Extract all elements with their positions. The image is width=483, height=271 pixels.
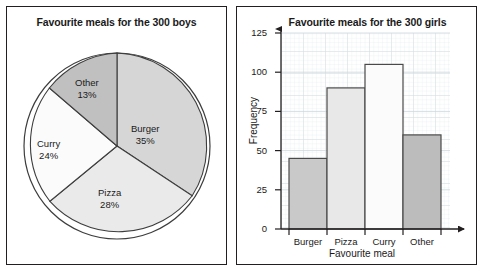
x-axis-label: Favourite meal [267,248,457,259]
bar-chart-panel: Favourite meals for the 300 girls [236,6,477,265]
pie-label-pizza: Pizza 28% [98,187,121,211]
pie-label-curry-name: Curry [37,138,60,150]
pie-label-curry: Curry 24% [37,138,60,162]
figure-container: Favourite meals for the 300 boys Burger … [0,0,483,271]
pie-label-pizza-value: 28% [98,199,121,211]
pie-label-other-value: 13% [75,89,99,101]
bar-burger [289,158,327,229]
y-tick-label-25: 25 [241,184,267,195]
pie-label-curry-value: 24% [37,150,60,162]
pie-label-other-name: Other [75,77,99,89]
pie-chart-plot: Burger 35% Pizza 28% Curry 24% Other 13% [23,35,211,257]
bar-svg [237,7,478,266]
pie-label-burger-value: 35% [131,135,160,147]
pie-label-burger-name: Burger [131,123,160,135]
x-axis-ticks [289,229,441,235]
x-tick-label-other: Other [396,236,448,247]
pie-label-burger: Burger 35% [131,123,160,147]
bar-pizza [327,88,365,229]
y-tick-label-125: 125 [241,27,267,38]
y-axis-label: Frequency [248,81,259,161]
pie-label-pizza-name: Pizza [98,187,121,199]
pie-label-other: Other 13% [75,77,99,101]
y-axis-ticks [275,33,281,229]
y-tick-label-100: 100 [241,66,267,77]
bar-other [403,135,441,229]
pie-chart-panel: Favourite meals for the 300 boys Burger … [6,6,227,265]
pie-chart-title: Favourite meals for the 300 boys [7,16,226,28]
y-tick-label-0: 0 [241,223,267,234]
bar-chart-plot: 0 25 50 75 100 125 Burger Pizza Curry Ot… [237,7,478,266]
bar-curry [365,64,403,229]
